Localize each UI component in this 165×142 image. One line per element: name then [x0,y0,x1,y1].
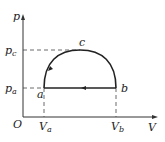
point-a-label: a [37,88,44,101]
pv-diagram: p V O pc pa Va Vb a b c [0,0,165,142]
va-label: Va [39,120,52,134]
direction-arrow-left [81,86,86,90]
v-axis-arrow [152,115,158,119]
origin-label: O [13,118,22,131]
pc-label: pc [5,44,17,58]
point-b-label: b [121,82,128,95]
vb-label: Vb [111,120,124,134]
point-c-label: c [79,36,85,49]
p-axis-label: p [13,10,20,23]
p-axis-arrow [21,14,25,20]
pa-label: pa [5,82,17,96]
v-axis-label: V [148,121,157,134]
semicircle-process [44,50,116,88]
